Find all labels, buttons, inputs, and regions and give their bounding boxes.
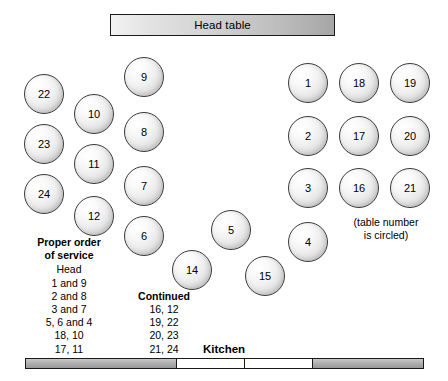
banquet-seating-diagram: Head table 22232410111298761451512341817… xyxy=(0,0,448,381)
legend-service-row: 18, 10 xyxy=(16,329,122,342)
table-note-line-2: is circled) xyxy=(330,229,442,242)
table-11[interactable]: 11 xyxy=(74,144,114,184)
table-9[interactable]: 9 xyxy=(124,57,164,97)
kitchen-wall-segment-wall xyxy=(312,358,424,369)
legend-service-row: 3 and 7 xyxy=(16,303,122,316)
kitchen-label: Kitchen xyxy=(0,343,448,355)
table-number-label: 9 xyxy=(141,72,147,83)
table-number-label: 2 xyxy=(305,131,311,142)
legend-columns: Head1 and 92 and 83 and 75, 6 and 418, 1… xyxy=(16,263,206,355)
legend-continued-heading: Continued xyxy=(122,290,206,303)
head-table-label: Head table xyxy=(194,19,251,31)
table-number-label: 10 xyxy=(88,109,100,120)
legend-title: Proper order of service xyxy=(16,236,122,262)
legend-service-row-continued: 20, 23 xyxy=(122,329,206,342)
head-table: Head table xyxy=(110,14,335,36)
table-5[interactable]: 5 xyxy=(211,210,251,250)
table-number-label: 3 xyxy=(305,183,311,194)
table-number-label: 20 xyxy=(404,131,416,142)
table-1[interactable]: 1 xyxy=(288,63,328,103)
table-18[interactable]: 18 xyxy=(339,63,379,103)
table-21[interactable]: 21 xyxy=(390,168,430,208)
legend-service-row: Head xyxy=(16,263,122,276)
legend-service-row: 2 and 8 xyxy=(16,290,122,303)
table-15[interactable]: 15 xyxy=(245,256,285,296)
table-number-label: 23 xyxy=(38,139,50,150)
table-number-label: 4 xyxy=(305,237,311,248)
table-23[interactable]: 23 xyxy=(24,124,64,164)
table-number-label: 22 xyxy=(38,89,50,100)
table-22[interactable]: 22 xyxy=(24,74,64,114)
table-2[interactable]: 2 xyxy=(288,116,328,156)
legend-service-row-continued: 16, 12 xyxy=(122,303,206,316)
table-4[interactable]: 4 xyxy=(288,222,328,262)
table-number-label: 15 xyxy=(259,271,271,282)
table-number-label: 18 xyxy=(353,78,365,89)
table-number-label: 21 xyxy=(404,183,416,194)
table-16[interactable]: 16 xyxy=(339,168,379,208)
table-number-label: 8 xyxy=(141,127,147,138)
table-number-label: 12 xyxy=(88,211,100,222)
table-8[interactable]: 8 xyxy=(124,112,164,152)
legend-service-row: 5, 6 and 4 xyxy=(16,316,122,329)
table-number-label: 5 xyxy=(228,225,234,236)
table-number-label: 7 xyxy=(141,181,147,192)
table-20[interactable]: 20 xyxy=(390,116,430,156)
table-10[interactable]: 10 xyxy=(74,94,114,134)
table-note-line-1: (table number xyxy=(330,216,442,229)
table-number-label: 16 xyxy=(353,183,365,194)
table-19[interactable]: 19 xyxy=(390,63,430,103)
table-number-label: 11 xyxy=(88,159,99,170)
table-24[interactable]: 24 xyxy=(24,174,64,214)
legend-title-line-1: Proper order xyxy=(16,236,122,249)
table-number-label: 1 xyxy=(305,78,311,89)
table-number-label: 17 xyxy=(353,131,365,142)
legend-service-row-continued: 19, 22 xyxy=(122,316,206,329)
kitchen-wall-segment-door xyxy=(244,358,313,369)
kitchen-wall xyxy=(25,358,425,369)
table-number-note: (table number is circled) xyxy=(330,216,442,242)
kitchen-wall-segment-wall xyxy=(25,358,177,369)
legend-column-left: Head1 and 92 and 83 and 75, 6 and 418, 1… xyxy=(16,263,122,355)
table-number-label: 19 xyxy=(404,78,416,89)
table-12[interactable]: 12 xyxy=(74,196,114,236)
legend-title-line-2: of service xyxy=(16,249,122,262)
kitchen-wall-segment-door xyxy=(176,358,245,369)
service-order-legend: Proper order of service Head1 and 92 and… xyxy=(16,236,206,356)
legend-service-row: 1 and 9 xyxy=(16,277,122,290)
table-number-label: 24 xyxy=(38,189,50,200)
table-17[interactable]: 17 xyxy=(339,116,379,156)
table-3[interactable]: 3 xyxy=(288,168,328,208)
table-7[interactable]: 7 xyxy=(124,166,164,206)
